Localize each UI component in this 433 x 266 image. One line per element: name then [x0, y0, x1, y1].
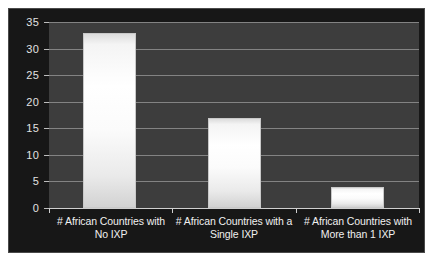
category-label-line-2: Single IXP [170, 228, 298, 241]
x-axis-line [49, 208, 420, 209]
y-axis-label-0: 0 [9, 203, 39, 214]
y-axis-label-5: 5 [9, 176, 39, 187]
y-axis-label-25: 25 [9, 70, 39, 81]
category-label-line-2: More than 1 IXP [294, 228, 422, 241]
category-label-line-1: # African Countries with [47, 215, 175, 228]
bar-more-than-one-ixp [331, 187, 384, 208]
x-axis-category-label-no-ixp: # African Countries with No IXP [47, 215, 175, 241]
category-label-line-1: # African Countries with [294, 215, 422, 228]
y-axis-label-20: 20 [9, 97, 39, 108]
y-axis-label-35: 35 [9, 17, 39, 28]
bar-chart-figure: 35 30 25 20 15 10 5 0 [0, 0, 433, 266]
category-label-line-1: # African Countries with a [170, 215, 298, 228]
plot-area [49, 22, 419, 208]
x-axis-tick-end [419, 209, 420, 213]
x-axis-tick-start [49, 209, 50, 213]
gridline-35 [49, 22, 419, 23]
x-axis-category-label-single-ixp: # African Countries with a Single IXP [170, 215, 298, 241]
bar-no-ixp [83, 33, 136, 208]
chart-frame: 35 30 25 20 15 10 5 0 [8, 8, 425, 253]
y-axis-label-10: 10 [9, 150, 39, 161]
x-axis-tick-1 [172, 209, 173, 213]
bar-single-ixp [208, 118, 261, 208]
y-axis-label-15: 15 [9, 123, 39, 134]
category-label-line-2: No IXP [47, 228, 175, 241]
x-axis-tick-2 [296, 209, 297, 213]
y-axis-label-30: 30 [9, 44, 39, 55]
x-axis-category-label-more-than-one-ixp: # African Countries with More than 1 IXP [294, 215, 422, 241]
